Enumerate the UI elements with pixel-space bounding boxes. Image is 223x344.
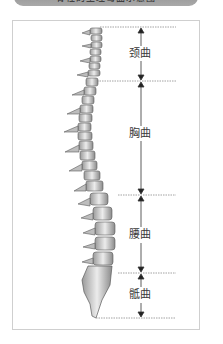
spine-illustration: [0, 0, 223, 344]
arrows: [138, 28, 144, 317]
vertebrae: [78, 28, 115, 265]
label-cervical-curve: 颈曲: [129, 47, 151, 61]
sacrum: [82, 266, 112, 318]
label-thoracic-curve: 胸曲: [129, 127, 151, 141]
label-lumbar-curve: 腰曲: [129, 228, 151, 242]
label-sacral-curve: 骶曲: [129, 288, 151, 302]
